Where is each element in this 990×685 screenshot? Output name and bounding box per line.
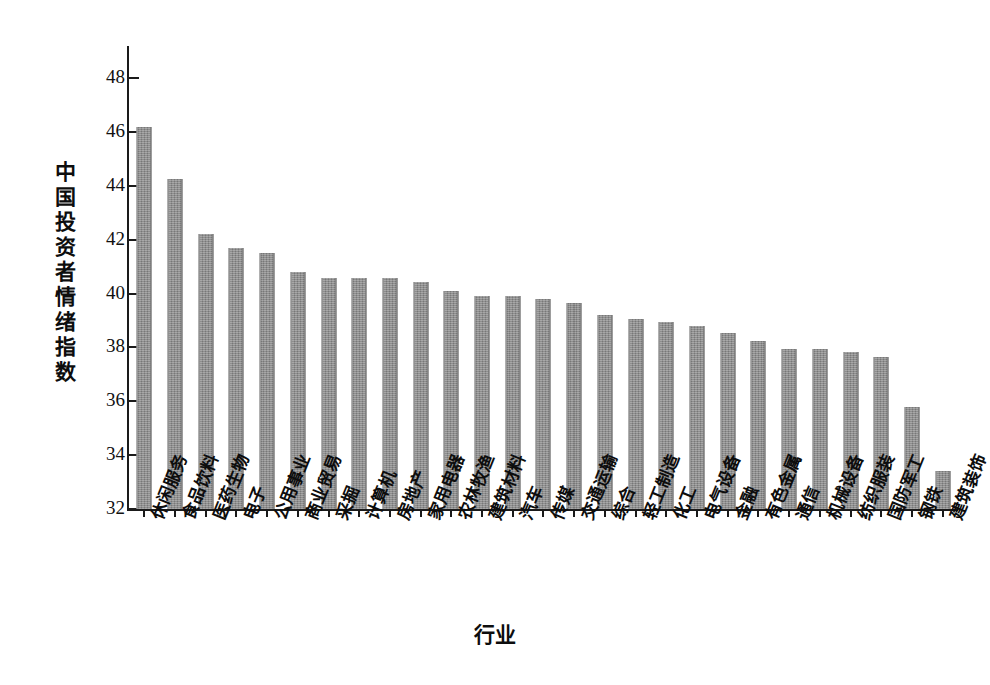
y-axis-title-char: 者 bbox=[48, 260, 82, 285]
bar-chart-figure: 中国投资者情绪指数 323436384042444648 休闲服务食品饮料医药生… bbox=[0, 0, 990, 685]
y-axis-title-char: 投 bbox=[48, 210, 82, 235]
bar-slot bbox=[405, 46, 436, 509]
y-axis-title: 中国投资者情绪指数 bbox=[48, 160, 82, 385]
y-axis-title-char: 中 bbox=[48, 160, 82, 185]
bar[interactable] bbox=[751, 341, 766, 509]
bar-slot bbox=[774, 46, 805, 509]
bar[interactable] bbox=[536, 299, 551, 509]
bar-slot bbox=[313, 46, 344, 509]
bar-slot bbox=[743, 46, 774, 509]
bar-slot bbox=[129, 46, 160, 509]
y-axis-tick-label: 34 bbox=[81, 443, 125, 465]
bar-slot bbox=[344, 46, 375, 509]
y-axis-title-char: 指 bbox=[48, 335, 82, 360]
y-axis-title-char: 国 bbox=[48, 185, 82, 210]
bar-slot bbox=[682, 46, 713, 509]
y-axis-tick-label: 32 bbox=[81, 497, 125, 519]
bar-slot bbox=[252, 46, 283, 509]
y-axis-tick-label: 36 bbox=[81, 389, 125, 411]
bar[interactable] bbox=[260, 253, 275, 509]
bar-slot bbox=[190, 46, 221, 509]
bar[interactable] bbox=[812, 349, 827, 509]
bar-slot bbox=[866, 46, 897, 509]
bar-series bbox=[129, 46, 958, 509]
bar-slot bbox=[375, 46, 406, 509]
bar[interactable] bbox=[137, 127, 152, 509]
bar-slot bbox=[221, 46, 252, 509]
bar-slot bbox=[528, 46, 559, 509]
bar[interactable] bbox=[567, 303, 582, 509]
bar-slot bbox=[590, 46, 621, 509]
x-axis-tick-labels: 休闲服务食品饮料医药生物电子公用事业商业贸易采掘计算机房地产家用电器农林牧渔建筑… bbox=[129, 513, 958, 618]
bar-slot bbox=[620, 46, 651, 509]
y-axis-tick-label: 40 bbox=[81, 282, 125, 304]
bar-slot bbox=[712, 46, 743, 509]
bar-slot bbox=[467, 46, 498, 509]
y-axis-tick-label: 38 bbox=[81, 335, 125, 357]
y-axis-title-char: 情 bbox=[48, 285, 82, 310]
y-axis-tick-label: 46 bbox=[81, 120, 125, 142]
bar[interactable] bbox=[628, 319, 643, 509]
plot-area: 323436384042444648 bbox=[127, 46, 958, 511]
bar[interactable] bbox=[352, 278, 367, 510]
y-axis-title-char: 资 bbox=[48, 235, 82, 260]
y-axis-title-char: 数 bbox=[48, 360, 82, 385]
bar-slot bbox=[804, 46, 835, 509]
bar-slot bbox=[927, 46, 958, 509]
bar[interactable] bbox=[690, 326, 705, 509]
bar-slot bbox=[283, 46, 314, 509]
bar-slot bbox=[559, 46, 590, 509]
bar-slot bbox=[497, 46, 528, 509]
bar-slot bbox=[835, 46, 866, 509]
y-axis-title-char: 绪 bbox=[48, 310, 82, 335]
bar-slot bbox=[651, 46, 682, 509]
bar-slot bbox=[897, 46, 928, 509]
bar-slot bbox=[160, 46, 191, 509]
y-axis-tick-label: 44 bbox=[81, 174, 125, 196]
y-axis-tick-label: 42 bbox=[81, 228, 125, 250]
y-axis-tick-label: 48 bbox=[81, 66, 125, 88]
x-axis-title: 行业 bbox=[0, 618, 990, 648]
bar-slot bbox=[436, 46, 467, 509]
